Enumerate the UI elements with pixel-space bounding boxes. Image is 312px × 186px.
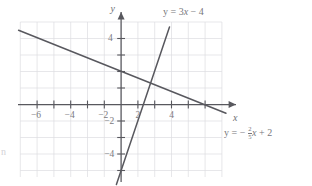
equation-label-line1: y = 3x − 4	[163, 7, 204, 17]
y-tick-label--4: −4	[104, 150, 114, 160]
x-axis-arrowhead	[229, 101, 236, 108]
equation-label-line2: y = − 25x + 2	[224, 126, 272, 140]
x-tick-label-4: 4	[169, 111, 174, 121]
equation-line1-suffix: − 4	[188, 6, 204, 17]
x-tick-label--6: −6	[31, 111, 41, 121]
equation-line2-prefix: y = −	[224, 127, 248, 138]
line-steep-3x-minus-4	[116, 27, 169, 185]
y-tick-label-4: 4	[108, 34, 113, 44]
x-axis-name: x	[233, 113, 237, 123]
coordinate-plane-svg	[0, 0, 312, 186]
equation-line2-suffix: + 2	[257, 127, 273, 138]
x-tick-label-2: 2	[136, 111, 141, 121]
y-tick-label--2: −2	[104, 117, 114, 127]
y-axis-arrowhead	[118, 12, 125, 19]
y-axis-name: y	[111, 4, 115, 14]
page-margin-artifact: n	[1, 146, 6, 157]
x-tick-label--4: −4	[65, 111, 75, 121]
equation-line1-prefix: y = 3	[163, 6, 184, 17]
